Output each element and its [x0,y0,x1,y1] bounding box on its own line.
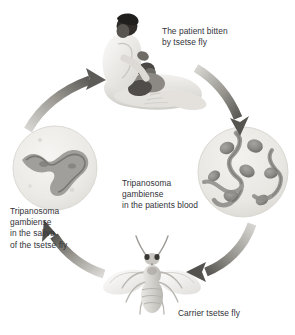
trypanosomes [204,133,281,205]
label-patient-bitten: The patient bitten by tsetse fly [162,26,228,48]
label-trypanosome-in-saliva: Tripanosoma gambiense in the saliva of t… [10,206,67,251]
arrow-patient-to-blood [196,68,249,136]
arrow-saliva-to-patient [28,68,106,130]
label-trypanosome-in-blood: Tripanosoma gambiense in the patients bl… [122,178,198,212]
blood-smear-circle [198,127,288,217]
life-cycle-diagram: The patient bitten by tsetse fly Tripano… [0,0,295,335]
blood-cells [206,138,279,208]
arrow-blood-to-fly [186,224,252,282]
saliva-smear-circle [13,126,97,210]
diagram-canvas [0,0,295,335]
tsetse-fly-illustration [103,236,201,314]
label-carrier-tsetse-fly: Carrier tsetse fly [178,308,240,319]
